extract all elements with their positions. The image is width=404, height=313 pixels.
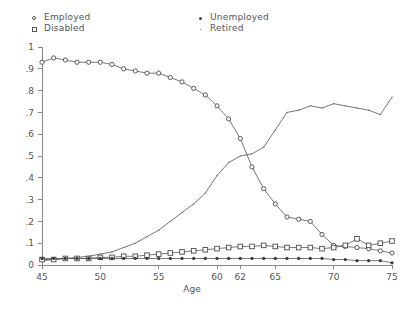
data-point-point [275, 129, 276, 130]
data-point-square [238, 244, 243, 249]
data-point-point [135, 243, 136, 244]
data-point-circle [87, 60, 91, 64]
y-tick-label: .6 [25, 129, 34, 139]
y-tick-label: .4 [25, 173, 34, 183]
data-point-square [366, 243, 371, 248]
data-point-square [308, 245, 313, 250]
data-point-point [263, 147, 264, 148]
data-point-dot [285, 257, 288, 260]
data-point-circle [227, 117, 231, 121]
data-series [40, 56, 395, 265]
series-line [42, 58, 392, 253]
y-tick-label: .8 [25, 86, 34, 96]
data-point-square [250, 244, 255, 249]
data-point-circle [297, 217, 301, 221]
data-point-point [111, 251, 112, 252]
axis-frame [42, 47, 392, 265]
data-point-square [203, 247, 208, 252]
data-point-point [193, 203, 194, 204]
y-tick-label: .5 [25, 151, 34, 161]
series-retired [41, 97, 392, 262]
y-tick-label: .1 [25, 238, 34, 248]
data-point-dot [297, 257, 300, 260]
y-tick-label: 1 [28, 42, 34, 52]
data-point-circle [180, 80, 184, 84]
chart-figure: EmployedDisabledUnemployedRetired 0.1.2.… [0, 0, 404, 313]
y-tick-label: .7 [25, 108, 34, 118]
data-point-dot [134, 257, 137, 260]
data-point-dot [332, 258, 335, 261]
data-point-square [273, 244, 278, 249]
data-point-circle [145, 71, 149, 75]
data-point-circle [75, 60, 79, 64]
data-point-dot [99, 257, 102, 260]
data-point-circle [63, 58, 67, 62]
data-point-point [181, 212, 182, 213]
x-tick-label: 50 [95, 272, 107, 282]
data-point-circle [203, 93, 207, 97]
data-point-circle [308, 219, 312, 223]
data-point-circle [285, 215, 289, 219]
data-point-point [100, 254, 101, 255]
data-point-point [310, 105, 311, 106]
data-point-circle [40, 60, 44, 64]
data-point-point [123, 247, 124, 248]
data-point-dot [367, 259, 370, 262]
data-point-point [170, 221, 171, 222]
data-point-point [251, 153, 252, 154]
data-point-point [146, 236, 147, 237]
data-point-dot [379, 259, 382, 262]
data-point-point [345, 105, 346, 106]
data-point-square [378, 241, 383, 246]
data-point-square [331, 245, 336, 250]
data-point-dot [355, 259, 358, 262]
data-point-circle [378, 249, 382, 253]
data-point-dot [122, 257, 125, 260]
y-tick-label: .2 [25, 217, 34, 227]
data-point-dot [344, 258, 347, 261]
data-point-dot [215, 257, 218, 260]
data-point-dot [64, 257, 67, 260]
data-point-circle [122, 67, 126, 71]
x-tick-label: 60 [211, 272, 223, 282]
data-point-point [240, 155, 241, 156]
plot-area: 0.1.2.3.4.5.6.7.8.914550556062657075Age [0, 0, 404, 313]
data-point-dot [227, 257, 230, 260]
x-tick-label: 75 [386, 272, 397, 282]
data-point-circle [355, 245, 359, 249]
data-point-square [285, 245, 290, 250]
y-tick-label: .9 [25, 64, 34, 74]
data-point-circle [98, 60, 102, 64]
data-point-dot [52, 257, 55, 260]
axes [38, 47, 392, 269]
data-point-dot [40, 257, 43, 260]
data-point-dot [87, 257, 90, 260]
x-tick-label: 65 [270, 272, 281, 282]
y-tick-label: .3 [25, 195, 34, 205]
data-point-dot [204, 257, 207, 260]
data-point-circle [250, 165, 254, 169]
data-point-square [355, 237, 360, 242]
x-axis-title: Age [183, 284, 201, 294]
data-point-square [261, 243, 266, 248]
data-point-circle [192, 86, 196, 90]
data-point-dot [274, 257, 277, 260]
data-point-circle [110, 62, 114, 66]
data-point-point [228, 162, 229, 163]
data-point-dot [320, 257, 323, 260]
series-employed [40, 56, 394, 255]
data-point-point [380, 114, 381, 115]
data-point-dot [110, 257, 113, 260]
data-point-dot [309, 257, 312, 260]
data-point-point [216, 175, 217, 176]
data-point-point [356, 107, 357, 108]
data-point-dot [157, 257, 160, 260]
data-point-point [368, 110, 369, 111]
data-point-circle [168, 75, 172, 79]
data-point-dot [192, 257, 195, 260]
data-point-circle [262, 187, 266, 191]
axis-labels: 0.1.2.3.4.5.6.7.8.914550556062657075Age [25, 42, 397, 294]
data-point-point [286, 112, 287, 113]
data-point-circle [320, 232, 324, 236]
x-tick-label: 45 [36, 272, 47, 282]
